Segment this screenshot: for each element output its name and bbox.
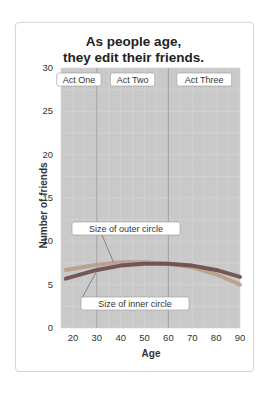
x-tick-label: 60 <box>163 332 174 343</box>
x-axis-label: Age <box>61 348 241 359</box>
annotation-outer-circle: Size of outer circle <box>89 224 163 234</box>
x-tick-label: 30 <box>92 332 103 343</box>
region-label: Act Two <box>117 75 149 85</box>
x-tick-label: 50 <box>139 332 150 343</box>
annotation-inner-circle: Size of inner circle <box>98 299 172 309</box>
y-axis-label: Number of friends <box>38 146 49 266</box>
y-tick-label: 25 <box>42 105 53 116</box>
y-tick-label: 5 <box>48 279 53 290</box>
region-label: Act One <box>63 75 96 85</box>
y-tick-label: 30 <box>42 62 53 73</box>
region-label: Act Three <box>185 75 224 85</box>
x-tick-label: 80 <box>211 332 222 343</box>
x-tick-label: 70 <box>187 332 198 343</box>
x-tick-label: 90 <box>235 332 246 343</box>
y-tick-label: 0 <box>48 322 53 333</box>
x-tick-label: 20 <box>68 332 79 343</box>
x-tick-label: 40 <box>115 332 126 343</box>
